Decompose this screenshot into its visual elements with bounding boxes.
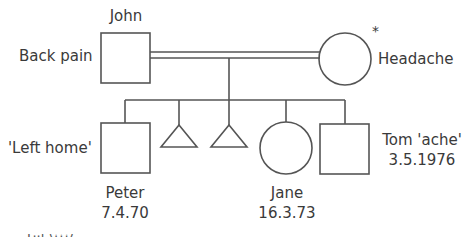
child-circle-jane — [260, 122, 312, 174]
tom-date-label: 3.5.1976 — [389, 151, 456, 169]
child-square-peter — [101, 123, 150, 173]
jane-date-label: 16.3.73 — [258, 204, 315, 222]
genogram-diagram — [0, 0, 466, 237]
jane-name-label: Jane — [271, 184, 303, 202]
child-square-tom — [320, 124, 369, 174]
father-name-label: John — [110, 7, 143, 25]
child-triangle-1 — [161, 125, 197, 147]
mother-note-label: Headache — [378, 50, 453, 68]
child-triangle-2 — [211, 125, 247, 147]
mother-circle — [319, 33, 371, 85]
mother-marker-asterisk: * — [372, 22, 379, 40]
tom-name-label: Tom 'ache' — [382, 131, 462, 149]
peter-date-label: 7.4.70 — [101, 204, 149, 222]
peter-note-label: 'Left home' — [8, 139, 92, 157]
peter-name-label: Peter — [105, 184, 144, 202]
father-note-label: Back pain — [19, 47, 93, 65]
father-square-john — [101, 33, 150, 83]
